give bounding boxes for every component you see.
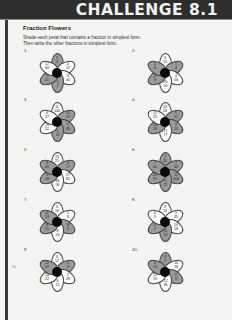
flower-problem-10: 10.4 516 185 912 3612 195 13 [128,247,218,297]
fraction-flower: 4 165 88 98 208 1511 13 [34,199,80,245]
problem-number: 5. [24,147,28,152]
fraction-flower: 4 516 185 912 3612 195 13 [142,249,188,295]
flower-center [52,68,62,78]
flower-problem-8: 8.3 189 4510 1811 164 76 9 [128,197,218,247]
petal-fraction: 7 62 [149,162,160,170]
fraction-flower: 7 117 4311 1002 2141 977 62 [142,149,188,195]
problem-number: 2. [132,48,136,53]
fraction-flower: 3 151 44 1620 504 95 6 [142,50,188,96]
problem-number: 7. [24,197,28,202]
petal-fraction: 5 13 [149,262,160,270]
flower-center [160,167,170,177]
problem-number: 1. [24,48,28,53]
fraction-flower: 11 10011 152 455 1420 526 27 [34,99,80,145]
petal-fraction: 6 27 [41,112,52,120]
fraction-flower: 3 44 123 405 77 1112 60 [34,50,80,96]
problem-number: 3. [24,97,28,102]
petal-fraction: 41 97 [149,174,160,182]
page-title: Fraction Flowers [23,25,71,31]
petal-fraction: 14 22 [41,274,52,282]
flower-center [160,68,170,78]
petal-fraction: 5 18 [41,174,52,182]
petal-fraction: 6 9 [149,212,160,220]
fraction-flower: 4 125 82 496 1514 2211 12 [34,249,80,295]
flower-problem-4: 4.10 185 122 1521 7713 1815 25 [128,97,218,147]
problem-number: 4. [132,97,136,102]
header-bar: CHALLENGE 8.1 [0,0,232,20]
flower-center [160,217,170,227]
problem-number: 9. [24,247,28,252]
flower-problem-7: 7.4 165 88 98 208 1511 13 [20,197,110,247]
petal-fraction: 20 52 [41,124,52,132]
flower-center [52,267,62,277]
flower-problem-3: 3.11 10011 152 455 1420 526 27 [20,97,110,147]
problem-number: 6. [132,147,136,152]
petal-fraction: 12 19 [149,274,160,282]
flower-center [160,267,170,277]
flower-center [52,217,62,227]
flower-center [160,117,170,127]
problem-number: 10. [132,247,138,252]
instruction-line-2: Then write the other fractions in simple… [23,41,117,46]
fraction-flower: 10 185 122 1521 7713 1815 25 [142,99,188,145]
page-binding-edge [5,0,8,320]
petal-fraction: 8 41 [41,162,52,170]
flower-center [52,117,62,127]
petal-fraction: 15 25 [149,112,160,120]
stray-mark: % [12,264,16,269]
petal-fraction: 11 13 [41,212,52,220]
flower-problem-1: 1.3 44 123 405 77 1112 60 [20,48,110,98]
petal-fraction: 8 15 [41,224,52,232]
flower-problem-5: 5.15 214 1727 8136 565 188 41 [20,147,110,197]
instruction-line-1: Shade each petal that contains a fractio… [23,35,141,40]
fraction-flower: 3 189 4510 1811 164 76 9 [142,199,188,245]
petal-fraction: 7 11 [41,75,52,83]
petal-fraction: 4 7 [149,224,160,232]
fraction-flower: 15 214 1727 8136 565 188 41 [34,149,80,195]
flower-problem-6: 6.7 117 4311 1002 2141 977 62 [128,147,218,197]
petal-fraction: 12 60 [41,63,52,71]
petal-fraction: 5 6 [149,63,160,71]
challenge-title: CHALLENGE 8.1 [76,1,218,19]
flower-center [52,167,62,177]
flower-problem-2: 2.3 151 44 1620 504 95 6 [128,48,218,98]
problem-number: 8. [132,197,136,202]
petal-fraction: 4 9 [149,75,160,83]
flower-problem-9: 9.4 125 82 496 1514 2211 12 [20,247,110,297]
petal-fraction: 11 12 [41,262,52,270]
petal-fraction: 13 18 [149,124,160,132]
